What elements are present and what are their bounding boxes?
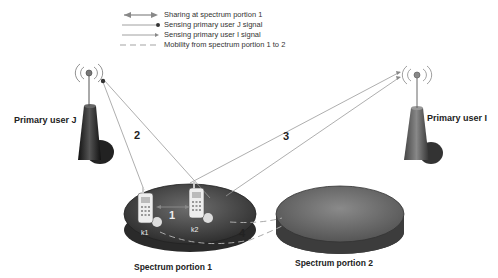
sensing-j-endpoint-dot [101,79,105,83]
legend-label: Sensing primary user I signal [164,30,261,40]
spectrum-portion-2-label: Spectrum portion 2 [295,258,373,268]
link-3-number: 3 [283,130,289,142]
legend-label: Sharing at spectrum portion 1 [164,10,262,20]
sensing-i-arrowhead-icon [396,71,401,75]
spectrum-portion-1-label: Spectrum portion 1 [134,262,212,272]
primary-user-j-label: Primary user J [14,115,77,125]
legend-item-mobility: Mobility from spectrum portion 1 to 2 [122,40,322,50]
primary-user-i-label: Primary user I [427,113,487,123]
legend-item-sensing-i: Sensing primary user I signal [122,30,322,40]
spectrum-portion-2-disk [276,186,404,254]
primary-user-j-tower-icon [75,64,114,164]
link-4-number: 4 [239,227,245,239]
link-2-number: 2 [134,129,140,141]
link-1-number: 1 [169,209,175,221]
legend-item-sharing: Sharing at spectrum portion 1 [122,10,322,20]
legend: Sharing at spectrum portion 1 Sensing pr… [122,10,322,50]
legend-label: Mobility from spectrum portion 1 to 2 [164,40,285,50]
legend-item-sensing-j: Sensing primary user J signal [122,20,322,30]
device-k1-label: k1 [141,229,148,236]
legend-label: Sensing primary user J signal [164,20,262,30]
device-k2-label: k2 [191,226,198,233]
sensing-lines [103,72,400,198]
